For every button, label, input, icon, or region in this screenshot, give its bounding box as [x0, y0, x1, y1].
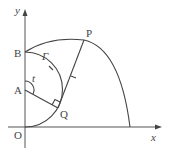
- curve-gamma-outer: [25, 39, 130, 127]
- point-Q-label: Q: [60, 109, 68, 120]
- angle-t-label: t: [32, 73, 35, 84]
- origin-label: O: [14, 130, 22, 141]
- segment-QP: [58, 40, 84, 108]
- tick-mark-arc: [49, 66, 53, 70]
- right-angle-mark: [52, 100, 60, 106]
- x-axis-label: x: [151, 132, 156, 143]
- x-axis-arrow-icon: [155, 125, 162, 130]
- y-axis-arrow-icon: [23, 9, 28, 16]
- diagram: y x O B A P Q Γ t: [0, 0, 169, 157]
- point-P-label: P: [86, 28, 92, 39]
- tick-mark-segment: [71, 76, 76, 78]
- curve-gamma-label: Γ: [42, 51, 48, 62]
- diagram-figure: [0, 0, 169, 157]
- point-B-label: B: [14, 48, 21, 59]
- segment-AQ: [25, 90, 58, 108]
- point-A-label: A: [14, 85, 22, 96]
- small-circle-arc: [25, 52, 63, 127]
- y-axis-label: y: [15, 5, 20, 16]
